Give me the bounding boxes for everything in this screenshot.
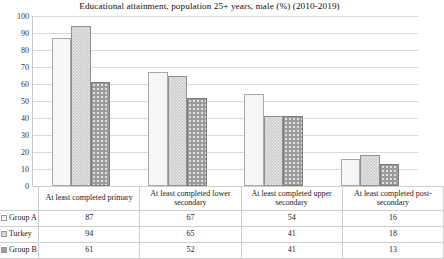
- bar: [71, 26, 91, 186]
- bar-group: [322, 16, 418, 186]
- y-axis: 1009080706050403020100: [0, 16, 29, 186]
- bar: [168, 76, 188, 187]
- y-axis-tick-label: 70: [0, 63, 29, 72]
- table-row: Group A87675416: [0, 211, 444, 227]
- bar: [187, 98, 207, 186]
- bar: [52, 38, 72, 186]
- table-cell-value: 54: [241, 211, 342, 227]
- y-axis-tick-label: 100: [0, 12, 29, 21]
- table-cell-value: 67: [140, 211, 241, 227]
- y-axis-tick-label: 30: [0, 131, 29, 140]
- table-cell-value: 41: [241, 227, 342, 243]
- legend-swatch-icon: [1, 215, 7, 221]
- legend-label: Group A: [9, 213, 37, 222]
- y-axis-tick-label: 20: [0, 148, 29, 157]
- bar-group: [33, 16, 129, 186]
- bar-group: [226, 16, 322, 186]
- y-axis-tick-label: 10: [0, 165, 29, 174]
- legend-swatch-icon: [1, 231, 7, 237]
- plot-area: [32, 16, 417, 186]
- bar-group: [129, 16, 225, 186]
- y-axis-tick-label: 80: [0, 46, 29, 55]
- table-cell-value: 94: [39, 227, 140, 243]
- table-cell-value: 16: [342, 211, 443, 227]
- legend-label: Turkey: [9, 229, 32, 238]
- table-column-header: At least completed post-secondary: [342, 187, 443, 211]
- table-row: Turkey94654118: [0, 227, 444, 243]
- table-column-header: At least completed primary: [39, 187, 140, 211]
- bar: [283, 116, 303, 186]
- y-axis-tick-label: 60: [0, 80, 29, 89]
- bar: [148, 72, 168, 186]
- y-axis-tick-label: 40: [0, 114, 29, 123]
- table-cell-value: 13: [342, 243, 443, 259]
- y-axis-tick-label: 90: [0, 29, 29, 38]
- bar: [380, 164, 400, 186]
- bar: [91, 82, 111, 186]
- legend-entry[interactable]: Turkey: [0, 227, 39, 243]
- data-table: At least completed primaryAt least compl…: [0, 186, 444, 259]
- table-cell-value: 65: [140, 227, 241, 243]
- table-cell-value: 52: [140, 243, 241, 259]
- bars-layer: [33, 16, 418, 186]
- table-column-header: At least completed upper secondary: [241, 187, 342, 211]
- legend-entry[interactable]: Group B: [0, 243, 39, 259]
- table-header-row: At least completed primaryAt least compl…: [0, 187, 444, 211]
- bar: [341, 159, 361, 186]
- y-axis-tick-label: 50: [0, 97, 29, 106]
- table-cell-value: 87: [39, 211, 140, 227]
- table-column-header: At least completed lower secondary: [140, 187, 241, 211]
- bar: [360, 155, 380, 186]
- table-row: Group B61524113: [0, 243, 444, 259]
- legend-label: Group B: [9, 245, 37, 254]
- table-cell-value: 18: [342, 227, 443, 243]
- table-corner-cell: [0, 187, 39, 211]
- chart-title: Educational attainment, population 25+ y…: [0, 1, 419, 11]
- table-cell-value: 41: [241, 243, 342, 259]
- legend-swatch-icon: [1, 247, 7, 253]
- bar: [244, 94, 264, 186]
- legend-entry[interactable]: Group A: [0, 211, 39, 227]
- table-cell-value: 61: [39, 243, 140, 259]
- bar: [264, 116, 284, 186]
